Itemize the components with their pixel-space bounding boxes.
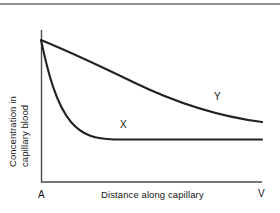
curve-y-path [41,40,262,122]
y-axis-title-line1: Concentration in [7,96,18,167]
y-axis-title: Concentration in capillary blood [8,55,42,167]
figure-root: Concentration in capillary blood Distanc… [0,0,280,213]
curve-label-y: Y [214,92,221,102]
curve-label-x: X [120,120,127,130]
y-axis-title-line2: capillary blood [19,105,30,167]
plot-area [0,0,280,213]
x-axis-start-label-arterial: A [38,190,45,200]
x-axis-end-label-venous: V [258,189,265,199]
x-axis-title: Distance along capillary [101,190,204,200]
